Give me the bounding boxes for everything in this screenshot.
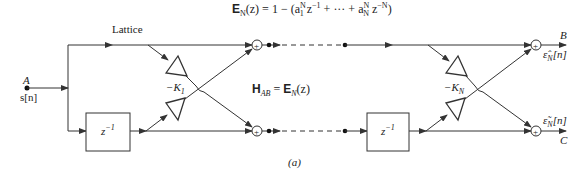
lattice-label: Lattice: [112, 23, 143, 35]
input-label-a: A: [22, 74, 30, 86]
input-signal-label: s[n]: [20, 91, 37, 103]
gain-triangle-top-n: [446, 56, 467, 76]
transfer-function-label: HAB = EN(z): [252, 82, 310, 98]
figure-caption: (a): [288, 156, 301, 169]
gain-triangle-bottom-n: [446, 98, 465, 120]
svg-text:+: +: [533, 41, 538, 51]
equation-top: EN(z) = 1 − (aN1 z−1 + ··· + aNN z−N): [232, 1, 392, 18]
gain-triangle-top-1: [166, 56, 187, 76]
svg-text:+: +: [254, 127, 259, 137]
lattice-filter-diagram: EN(z) = 1 − (aN1 z−1 + ··· + aNN z−N) La…: [0, 0, 586, 179]
forward-error-label: ε̂N[n]: [543, 48, 567, 63]
gain-label-1: −K1: [166, 81, 185, 96]
delay-block-1: [86, 113, 130, 151]
output-label-b: B: [560, 29, 567, 41]
gain-label-n: −KN: [444, 81, 465, 96]
svg-text:+: +: [533, 127, 538, 137]
svg-text:+: +: [254, 41, 259, 51]
delay-block-n: [367, 113, 409, 151]
backward-error-label: ε̃N[n]: [543, 114, 567, 129]
output-label-c: C: [560, 134, 568, 146]
gain-triangle-bottom-1: [166, 98, 185, 120]
